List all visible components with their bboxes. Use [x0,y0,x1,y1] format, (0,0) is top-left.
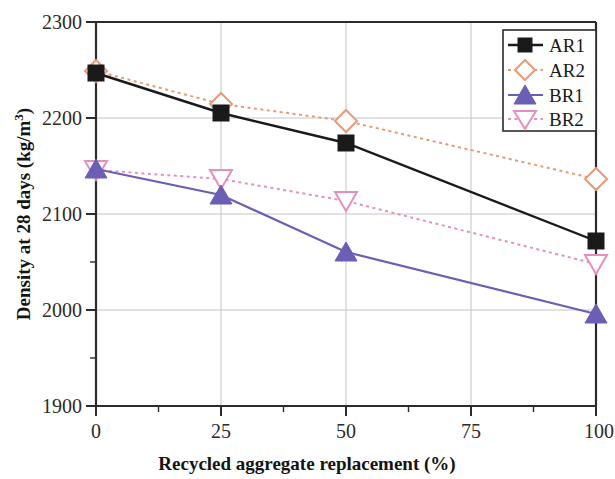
data-point-marker [338,135,354,151]
data-point-marker [588,233,604,249]
svg-text:Density at 28 days (kg/m3): Density at 28 days (kg/m3) [11,108,35,320]
x-axis-major-ticks [96,406,596,416]
y-axis-title: Density at 28 days (kg/m3) [11,108,35,320]
legend-label-ar1: AR1 [549,35,585,56]
legend-label-br2: BR2 [549,109,584,130]
data-point-marker [88,65,104,81]
x-tick-label: 25 [211,420,231,442]
x-tick-label: 75 [461,420,481,442]
data-point-marker [213,105,229,121]
y-tick-label: 2000 [42,299,82,321]
y-axis-title-main: Density at 28 days (kg/m [13,120,35,320]
y-tick-label: 1900 [42,395,82,417]
y-axis-tick-labels: 2300 2200 2100 2000 1900 [42,11,82,417]
y-tick-label: 2100 [42,203,82,225]
x-tick-label: 50 [336,420,356,442]
filled-square-icon [518,38,532,52]
legend-label-br1: BR1 [549,85,584,106]
chart-legend: AR1 AR2 BR1 BR2 [503,30,596,131]
x-axis-tick-labels: 0 25 50 75 100 [91,420,614,442]
x-tick-label: 0 [91,420,101,442]
x-axis-title: Recycled aggregate replacement (%) [158,453,455,475]
y-tick-label: 2300 [42,11,82,33]
y-axis-title-end: ) [13,108,35,114]
y-tick-label: 2200 [42,107,82,129]
legend-label-ar2: AR2 [549,60,585,81]
x-tick-label: 100 [584,420,614,442]
chart-figure: 2300 2200 2100 2000 1900 0 25 50 75 100 … [0,0,615,479]
density-line-chart: 2300 2200 2100 2000 1900 0 25 50 75 100 … [0,0,615,479]
